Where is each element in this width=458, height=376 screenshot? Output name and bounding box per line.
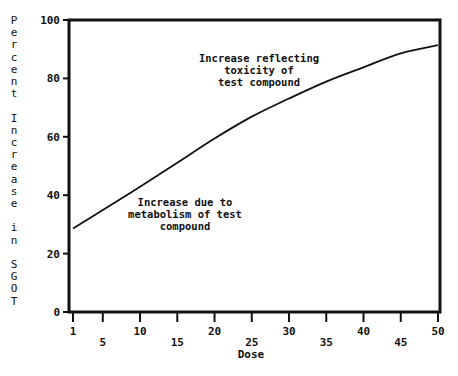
annotation-text: test compound bbox=[218, 76, 300, 88]
x-tick-label: 15 bbox=[171, 336, 184, 349]
x-tick-label: 35 bbox=[320, 336, 333, 349]
y-tick-label: 20 bbox=[47, 248, 60, 261]
x-axis-label: Dose bbox=[238, 348, 265, 361]
y-tick-label: 40 bbox=[47, 189, 60, 202]
y-tick-label: 0 bbox=[53, 306, 60, 319]
line-chart: 02040608010011020304050515253545DoseIncr… bbox=[0, 0, 458, 376]
x-tick-label: 40 bbox=[357, 325, 370, 338]
y-tick-label: 100 bbox=[40, 14, 60, 27]
annotation-text: Increase due to bbox=[138, 196, 233, 208]
x-tick-label: 1 bbox=[70, 325, 77, 338]
x-tick-label: 45 bbox=[394, 336, 407, 349]
annotation-text: metabolism of test bbox=[128, 208, 242, 220]
x-tick-label: 50 bbox=[431, 325, 444, 338]
x-tick-label: 10 bbox=[133, 325, 146, 338]
annotation-text: Increase reflecting bbox=[199, 52, 319, 64]
y-tick-label: 80 bbox=[47, 72, 60, 85]
x-tick-label: 20 bbox=[208, 325, 221, 338]
x-tick-label: 30 bbox=[282, 325, 295, 338]
x-tick-label: 5 bbox=[99, 336, 106, 349]
y-tick-label: 60 bbox=[47, 131, 60, 144]
annotation-text: compound bbox=[160, 220, 211, 232]
annotation-text: toxicity of bbox=[224, 64, 294, 76]
